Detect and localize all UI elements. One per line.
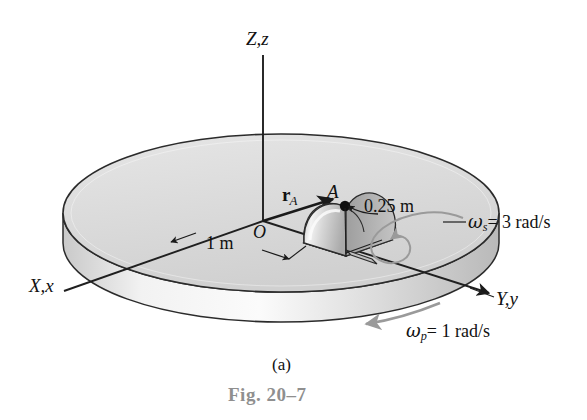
rotor-radius-dimension-label: 0.25 m: [364, 196, 414, 217]
omega-s-symbol: ω: [468, 211, 483, 232]
platter-disk: [63, 134, 499, 322]
omega-s-value: = 3 rad/s: [487, 212, 550, 232]
vector-rA-label: rA: [282, 184, 298, 206]
axis-label-z: Z,z: [246, 28, 269, 50]
axis-label-y: Y,y: [496, 288, 518, 310]
axis-label-x: X,x: [29, 275, 54, 297]
figure-number-caption: Fig. 20–7: [228, 384, 306, 406]
spin-velocity-label: ωs= 3 rad/s: [468, 211, 551, 235]
vector-r-subscript: A: [289, 193, 297, 208]
precession-velocity-label: ωp= 1 rad/s: [406, 320, 490, 344]
gyroscope-figure: [0, 0, 587, 420]
omega-p-symbol: ω: [406, 320, 421, 341]
y-axis-leader: [470, 288, 494, 297]
omega-p-value: = 1 rad/s: [427, 321, 490, 341]
origin-label: O: [253, 222, 266, 243]
point-a-label: A: [327, 181, 339, 203]
subfigure-caption: (a): [272, 355, 291, 375]
disk-radius-dimension-label: 1 m: [206, 233, 234, 254]
